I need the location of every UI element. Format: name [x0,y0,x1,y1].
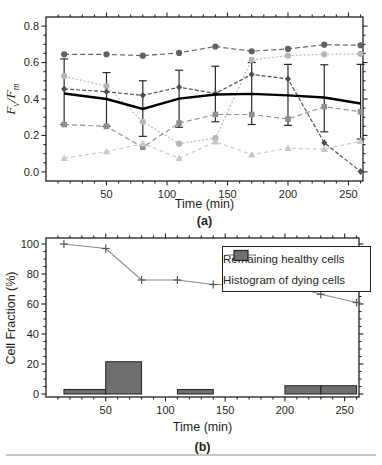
y-tick-label: 80 [27,268,39,280]
triangle-marker [175,155,182,161]
y-tick-label: 0.8 [24,20,39,32]
circle-marker [357,42,363,48]
square-marker [249,112,255,118]
series-cell-triangles [61,138,365,161]
ylabel-sub-v: v [11,102,21,106]
filled-square-marker-icon [223,247,259,263]
diamond-marker [140,92,146,99]
chart-a-x-axis-label: Time (min) [46,197,363,211]
circle-marker [61,51,67,57]
histogram-bar [285,386,321,394]
circle-marker [321,51,327,57]
x-tick-label: 250 [335,404,353,416]
circle-marker [285,53,291,59]
series-mean [64,94,360,109]
square-marker [321,104,327,110]
x-tick-label: 200 [276,404,294,416]
y-tick-label: 0 [33,388,39,400]
y-tick-label: 0.2 [24,129,39,141]
square-marker [285,116,291,122]
ylabel-sub-m: m [11,83,21,90]
chart-b-sublabel: (b) [46,440,359,454]
diamond-marker [61,86,67,93]
circle-marker [321,42,327,48]
y-tick-label: 20 [27,358,39,370]
chart-a-plot: 501001502002500.00.20.40.60.8 [0,0,382,228]
series-line [64,94,360,109]
plot-border [46,17,363,181]
ylabel-F: F [3,106,18,114]
axis-ticks [42,13,368,186]
chart-b-legend: Remaining healthy cells Histogram of dyi… [222,246,371,292]
series-line [64,74,360,171]
chart-a-sublabel: (a) [46,214,363,228]
x-tick-label: 50 [100,404,112,416]
chart-b-y-axis-label: Cell Fraction (%) [4,263,20,373]
y-tick-label: 60 [27,298,39,310]
histogram-bar [321,386,357,394]
diamond-marker [285,76,291,83]
square-marker [61,122,67,128]
triangle-marker [139,140,146,146]
chart-b-block: 50100150200250020406080100 Remaining hea… [0,228,382,465]
page-divider [6,454,376,456]
circle-marker [212,43,218,49]
histogram-bar [64,390,106,395]
y-tick-label: 0.6 [24,56,39,68]
circle-marker [176,50,182,56]
histogram-bar [106,362,142,394]
triangle-marker [284,145,291,151]
series-cell-dark-circles [61,42,364,59]
circle-marker [61,73,67,79]
x-tick-label: 100 [156,404,174,416]
circle-marker [357,51,363,57]
y-tick-label: 0.4 [24,93,39,105]
x-tick-label: 150 [216,404,234,416]
ylabel-slash: / [3,98,18,102]
series-histogram-of-dying-cells [64,362,357,394]
y-tick-label: 100 [21,238,39,250]
legend-label-dying: Histogram of dying cells [223,274,345,286]
diamond-marker [249,71,255,78]
chart-b-x-axis-label: Time (min) [46,420,359,434]
square-marker [213,112,219,118]
circle-marker [176,141,182,147]
circle-marker [285,46,291,52]
square-marker [176,120,182,126]
y-tick-label: 40 [27,328,39,340]
diamond-marker [103,88,109,95]
legend-item-dying-cells: Histogram of dying cells [223,270,370,289]
circle-marker [140,119,146,125]
square-marker [104,124,110,130]
figure-page: 501001502002500.00.20.40.60.8 Fv/Fm Time… [0,0,382,465]
y-tick-label: 0.0 [24,166,39,178]
chart-a-block: 501001502002500.00.20.40.60.8 Fv/Fm Time… [0,0,382,228]
diamond-marker [176,84,182,91]
circle-marker [103,51,109,57]
circle-marker [249,48,255,54]
histogram-bar [177,390,213,395]
circle-marker [249,57,255,63]
chart-a-y-axis-label: Fv/Fm [3,69,19,129]
circle-marker [140,53,146,59]
ylabel-F2: F [3,90,18,98]
square-marker [358,109,364,115]
